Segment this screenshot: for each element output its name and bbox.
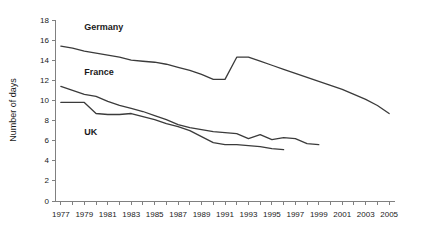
y-axis-title: Number of days [8, 78, 18, 142]
x-tick-label: 2003 [357, 210, 375, 219]
y-tick-label: 12 [40, 76, 49, 85]
x-axis: 1977197919811983198519871989199119931995… [52, 201, 399, 219]
y-tick-label: 18 [40, 16, 49, 25]
x-tick-label: 1981 [99, 210, 117, 219]
y-tick-label: 2 [45, 176, 50, 185]
y-tick-label: 8 [45, 116, 50, 125]
x-tick-label: 1985 [146, 210, 164, 219]
series-label-france: France [84, 67, 114, 77]
x-tick-label: 1999 [310, 210, 328, 219]
x-tick-label: 1995 [263, 210, 281, 219]
x-tick-label: 1991 [216, 210, 234, 219]
x-tick-label: 2005 [380, 210, 398, 219]
x-tick-label: 1997 [286, 210, 304, 219]
x-tick-label: 1977 [52, 210, 70, 219]
x-tick-label: 1989 [193, 210, 211, 219]
y-axis: 024681012141618 [40, 16, 55, 206]
x-tick-label: 1987 [169, 210, 187, 219]
y-tick-label: 16 [40, 36, 49, 45]
series-line-germany [61, 46, 389, 113]
y-tick-label: 4 [45, 156, 50, 165]
y-tick-label: 14 [40, 56, 49, 65]
y-tick-label: 0 [45, 197, 50, 206]
series-label-germany: Germany [84, 22, 123, 32]
x-tick-label: 1983 [122, 210, 140, 219]
series-label-uk: UK [84, 127, 97, 137]
series-line-france [61, 86, 319, 144]
line-chart: 024681012141618 197719791981198319851987… [0, 0, 430, 242]
x-tick-label: 2001 [333, 210, 351, 219]
y-tick-label: 10 [40, 96, 49, 105]
series-annotations: GermanyFranceUK [84, 22, 123, 137]
x-tick-label: 1993 [240, 210, 258, 219]
series-lines [61, 46, 389, 150]
chart-container: 024681012141618 197719791981198319851987… [0, 0, 430, 242]
y-tick-label: 6 [45, 136, 50, 145]
x-tick-label: 1979 [75, 210, 93, 219]
